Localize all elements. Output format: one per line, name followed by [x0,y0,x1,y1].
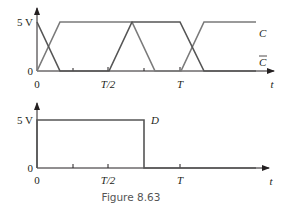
bottom-y-label-low: 0 [28,162,34,174]
waveform-d [37,120,256,168]
bottom-y-label-high: 5 V [17,114,33,126]
label-c: C [259,27,267,39]
bottom-x-label-zero: 0 [34,174,40,186]
top-x-label-zero: 0 [34,78,40,90]
top-plot: 5 V 0 0 T/2 T t C C [17,8,274,90]
top-x-label-half: T/2 [101,78,116,90]
bottom-x-label-half: T/2 [101,174,116,186]
top-x-label-full: T [177,78,184,90]
label-c-bar: C [259,56,267,68]
figure-canvas: 5 V 0 0 T/2 T t C C 5 V 0 0 T/2 T t D Fi… [0,0,290,214]
figure-caption: Figure 8.63 [102,191,161,203]
bottom-x-axis-label: t [269,175,273,187]
label-d: D [150,114,159,126]
top-y-label-high: 5 V [17,16,33,28]
bottom-x-label-full: T [177,174,184,186]
top-x-axis-label: t [270,78,274,90]
waveform-c [37,22,256,71]
waveform-c-bar [37,22,256,71]
top-y-label-low: 0 [28,65,34,77]
bottom-plot: 5 V 0 0 T/2 T t D [17,103,273,187]
